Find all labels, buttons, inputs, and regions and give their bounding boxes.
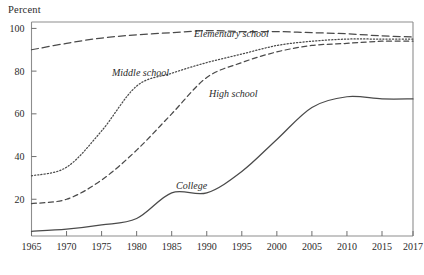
x-tick-label: 1985: [162, 241, 182, 252]
x-tick-label: 2010: [337, 241, 357, 252]
x-tick-label: 2000: [267, 241, 287, 252]
x-tick-label: 1980: [127, 241, 147, 252]
y-tick-label: 40: [15, 151, 25, 162]
series-line-college: [32, 96, 414, 231]
y-tick-label: 20: [15, 194, 25, 205]
series-line-high-school: [32, 41, 414, 203]
chart-container: Percent 20406080100 19651970197519801985…: [0, 0, 424, 275]
series-label-elementary: Elementary school: [193, 28, 269, 39]
y-tick-label: 100: [10, 23, 25, 34]
data-series-group: [32, 31, 414, 232]
series-label-middle: Middle school: [111, 67, 169, 78]
line-chart-plot: 20406080100 1965197019751980198519901995…: [0, 0, 424, 275]
x-tick-label: 2015: [372, 241, 392, 252]
series-label-high: High school: [208, 88, 258, 99]
x-tick-label: 1975: [92, 241, 112, 252]
x-axis-ticks: 1965197019751980198519901995200020052010…: [22, 231, 424, 252]
y-tick-label: 80: [15, 66, 25, 77]
x-tick-label: 1965: [22, 241, 42, 252]
x-tick-label: 1995: [232, 241, 252, 252]
y-tick-label: 60: [15, 108, 25, 119]
plot-frame: [32, 22, 414, 236]
x-tick-label: 1970: [57, 241, 77, 252]
x-tick-label: 2005: [302, 241, 322, 252]
x-tick-label: 2017: [403, 241, 423, 252]
series-label-college: College: [176, 180, 208, 191]
series-line-middle-school: [32, 39, 414, 176]
x-tick-label: 1990: [197, 241, 217, 252]
